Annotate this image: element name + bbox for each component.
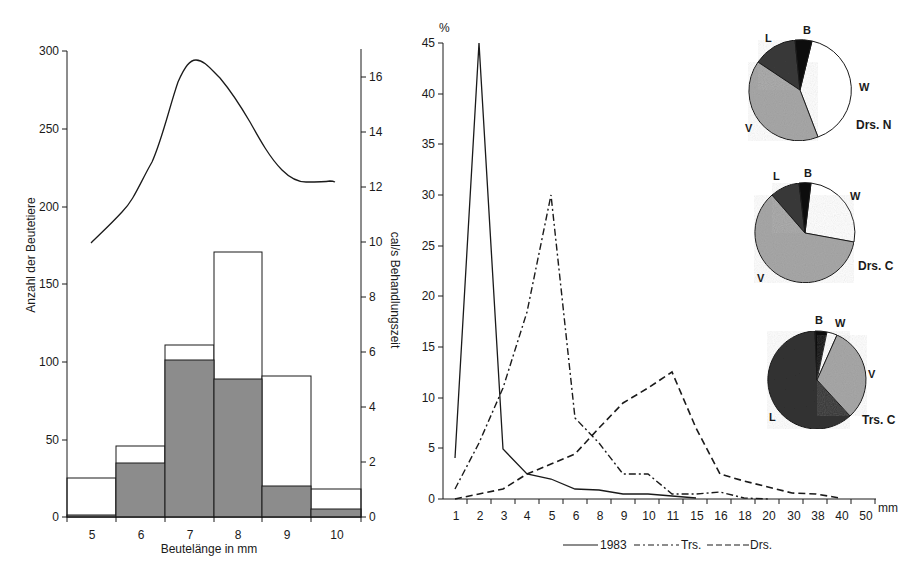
ytick-right: 8: [369, 290, 376, 304]
bar-8-gray: [214, 379, 262, 517]
xtick: 7: [187, 528, 194, 542]
right-y-axis-title: cal/s Behandlungszeit: [388, 232, 402, 349]
ytick: 5: [428, 441, 435, 455]
xtick: 5: [549, 509, 556, 523]
pie-label-v: V: [757, 272, 765, 284]
left-chart: 300 250 200 150 100 50 0 Anzahl der Beut…: [24, 44, 402, 556]
pie-drs-c: [755, 183, 855, 283]
bar-9-gray: [262, 486, 311, 517]
right-y-axis: [361, 49, 366, 517]
ytick-right: 14: [369, 125, 383, 139]
cal-curve: [91, 60, 335, 243]
ytick-right: 12: [369, 180, 383, 194]
xtick: 3: [501, 509, 508, 523]
ytick: 40: [422, 87, 436, 101]
pie-label-l: L: [765, 32, 772, 44]
ytick-right: 10: [369, 235, 383, 249]
right-y-tick-labels: 0 2 4 6 8 10 12 14 16: [369, 70, 383, 524]
ytick: 15: [422, 340, 436, 354]
bar-6-gray: [116, 463, 165, 517]
right-chart-x-axis: [443, 499, 876, 504]
xtick: 30: [787, 509, 801, 523]
right-chart-y-axis: [438, 43, 443, 499]
legend-item-trs: Trs.: [634, 538, 701, 552]
pie-label-w: W: [835, 317, 846, 329]
pie-label-v: V: [745, 122, 753, 134]
xtick: 1: [453, 509, 460, 523]
ytick: 0: [52, 510, 59, 524]
ytick: 10: [422, 391, 436, 405]
series-trs: [455, 195, 768, 499]
legend-label: Drs.: [750, 538, 772, 552]
pie-label-w: W: [859, 81, 870, 93]
bar-7-gray: [165, 360, 214, 517]
series-1983: [455, 43, 696, 498]
pie-label-w: W: [850, 190, 861, 202]
xtick: 18: [738, 509, 752, 523]
ytick: 250: [39, 122, 59, 136]
ytick: 30: [422, 188, 436, 202]
xtick: 8: [235, 528, 242, 542]
figure: 300 250 200 150 100 50 0 Anzahl der Beut…: [0, 0, 919, 579]
ytick: 45: [422, 36, 436, 50]
xtick: 15: [690, 509, 704, 523]
pie-label-l: L: [769, 411, 776, 423]
xtick: 8: [597, 509, 604, 523]
pie-label-b: B: [815, 314, 823, 326]
ytick-right: 16: [369, 70, 383, 84]
slice-w: [805, 183, 855, 242]
legend: 1983 Trs. Drs.: [563, 538, 772, 552]
ytick: 35: [422, 137, 436, 151]
xtick: 11: [667, 509, 680, 523]
legend-label: Trs.: [681, 538, 701, 552]
ytick-right: 2: [369, 455, 376, 469]
bar-5-total: [67, 478, 116, 517]
xtick: 38: [811, 509, 825, 523]
left-y-axis: [62, 51, 67, 517]
ytick: 150: [39, 277, 59, 291]
ytick-right: 6: [369, 345, 376, 359]
pie-title: Trs. C: [862, 413, 896, 427]
pie-label-v: V: [868, 368, 876, 380]
xtick: 9: [621, 509, 628, 523]
xtick: 10: [642, 509, 656, 523]
ytick-right: 0: [369, 510, 376, 524]
ytick: 20: [422, 289, 436, 303]
pie-trs-c: [768, 331, 866, 429]
pie-title: Drs. N: [856, 118, 891, 132]
ytick: 300: [39, 44, 59, 58]
xtick: 16: [714, 509, 728, 523]
legend-item-drs: Drs.: [707, 538, 772, 552]
ytick: 0: [428, 492, 435, 506]
pie-label-l: L: [773, 170, 780, 182]
legend-item-1983: 1983: [563, 538, 627, 552]
pie-title: Drs. C: [858, 259, 894, 273]
left-x-tick-labels: 5 6 7 8 9 10: [89, 528, 344, 542]
xtick: 10: [330, 528, 344, 542]
ytick: 50: [46, 433, 60, 447]
pie-label-b: B: [803, 24, 811, 36]
xtick: 9: [284, 528, 291, 542]
ytick: 200: [39, 200, 59, 214]
xtick: 4: [524, 509, 531, 523]
bar-10-gray: [311, 509, 361, 517]
ytick-right: 4: [369, 400, 376, 414]
xtick: 2: [477, 509, 484, 523]
xtick: 6: [573, 509, 580, 523]
xtick: 6: [138, 528, 145, 542]
pie-label-b: B: [804, 167, 812, 179]
xtick: 20: [762, 509, 776, 523]
xtick: 5: [89, 528, 96, 542]
xtick: 50: [859, 509, 873, 523]
y-unit-label: %: [439, 21, 450, 35]
xtick: 40: [835, 509, 849, 523]
left-x-axis: [67, 517, 361, 522]
ytick: 100: [39, 355, 59, 369]
right-chart-x-tick-labels: 1 2 3 4 5 6 8 9 10 11 15 16 18 20 30 38 …: [453, 509, 873, 523]
legend-label: 1983: [600, 538, 627, 552]
left-y-axis-title: Anzahl der Beutetiere: [24, 197, 38, 313]
left-y-tick-labels: 300 250 200 150 100 50 0: [39, 44, 59, 524]
pie-drs-n: [749, 40, 851, 141]
right-chart-y-tick-labels: 0 5 10 15 20 25 30 35 40 45: [422, 36, 436, 506]
x-unit-label: mm: [878, 501, 898, 515]
